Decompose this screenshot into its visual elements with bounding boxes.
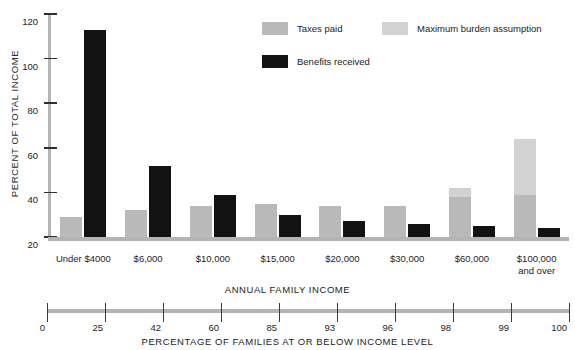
bar-benefits-received: [149, 166, 171, 237]
y-tick-label-40: 40: [8, 194, 38, 205]
y-tick-label-100: 100: [8, 61, 38, 72]
legend-swatch-taxes-paid: [262, 22, 288, 35]
category-label: $60,000: [440, 253, 505, 265]
plot-area: [51, 14, 569, 237]
bar-group: [116, 14, 181, 237]
secondary-tick-label-60: 60: [185, 322, 219, 333]
bar-group: [181, 14, 246, 237]
secondary-tick-label-99: 99: [475, 322, 509, 333]
bar-taxes-paid: [190, 206, 212, 237]
category-label: $100,000and over: [504, 253, 569, 276]
category-label: $10,000: [181, 253, 246, 265]
bar-benefits-received: [279, 215, 301, 237]
y-tick-label-20: 20: [8, 239, 38, 250]
bar-group: [310, 14, 375, 237]
bar-group: [440, 14, 505, 237]
bar-taxes-paid: [255, 204, 277, 237]
secondary-tick-42: [163, 303, 164, 322]
secondary-tick-0: [47, 303, 48, 322]
y-tick-label-80: 80: [8, 105, 38, 116]
legend-label-taxes-paid: Taxes paid: [297, 23, 342, 34]
secondary-tick-98: [453, 303, 454, 322]
x-axis-title: ANNUAL FAMILY INCOME: [0, 284, 575, 295]
bar-group: [504, 14, 569, 237]
category-label: $6,000: [116, 253, 181, 265]
bar-taxes-paid: [319, 206, 341, 237]
y-tick-label-120: 120: [8, 16, 38, 27]
secondary-axis-line: [47, 309, 569, 313]
secondary-tick-100: [569, 303, 570, 322]
legend-item-maximum-burden-assumption: Maximum burden assumption: [382, 22, 542, 35]
category-label-line: $100,000: [504, 253, 569, 265]
bar-taxes-paid: [449, 197, 471, 237]
category-label-line: $20,000: [310, 253, 375, 265]
secondary-tick-60: [221, 303, 222, 322]
secondary-tick-99: [511, 303, 512, 322]
category-label: $20,000: [310, 253, 375, 265]
y-tick-label-60: 60: [8, 150, 38, 161]
legend-item-taxes-paid: Taxes paid: [262, 22, 342, 35]
category-label: Under $4000: [51, 253, 116, 265]
secondary-tick-25: [105, 303, 106, 322]
legend-swatch-benefits-received: [262, 55, 288, 68]
bar-benefits-received: [343, 221, 365, 237]
category-label-line: $10,000: [181, 253, 246, 265]
bar-benefits-received: [538, 228, 560, 237]
bar-group: [375, 14, 440, 237]
bar-taxes-paid: [125, 210, 147, 237]
legend-swatch-maximum-burden-assumption: [382, 22, 408, 35]
category-label-line: $60,000: [440, 253, 505, 265]
bar-benefits-received: [408, 224, 430, 237]
secondary-tick-label-98: 98: [417, 322, 451, 333]
category-label: $30,000: [375, 253, 440, 265]
secondary-tick-85: [279, 303, 280, 322]
secondary-tick-label-100: 100: [533, 322, 567, 333]
secondary-tick-label-42: 42: [127, 322, 161, 333]
category-label-line: and over: [504, 265, 569, 277]
bar-benefits-received: [84, 30, 106, 237]
x-axis-baseline: [48, 237, 569, 241]
bar-benefits-received: [214, 195, 236, 237]
secondary-tick-96: [395, 303, 396, 322]
legend-label-benefits-received: Benefits received: [297, 56, 370, 67]
category-label-line: $6,000: [116, 253, 181, 265]
category-label: $15,000: [245, 253, 310, 265]
category-label-line: $15,000: [245, 253, 310, 265]
legend-item-benefits-received: Benefits received: [262, 55, 370, 68]
bar-taxes-paid: [384, 206, 406, 237]
secondary-tick-label-25: 25: [69, 322, 103, 333]
bar-taxes-paid: [514, 195, 536, 237]
secondary-tick-93: [337, 303, 338, 322]
legend-label-maximum-burden-assumption: Maximum burden assumption: [417, 23, 542, 34]
chart-root: PERCENT OF TOTAL INCOME 20406080100120 U…: [0, 0, 575, 350]
category-label-line: $30,000: [375, 253, 440, 265]
secondary-tick-label-0: 0: [11, 322, 45, 333]
bar-group: [245, 14, 310, 237]
bar-benefits-received: [473, 226, 495, 237]
category-label-line: Under $4000: [51, 253, 116, 265]
secondary-tick-label-93: 93: [301, 322, 335, 333]
secondary-tick-label-85: 85: [243, 322, 277, 333]
bar-taxes-paid: [60, 217, 82, 237]
secondary-axis-title: PERCENTAGE OF FAMILIES AT OR BELOW INCOM…: [0, 336, 575, 347]
bar-group: [51, 14, 116, 237]
secondary-tick-label-96: 96: [359, 322, 393, 333]
